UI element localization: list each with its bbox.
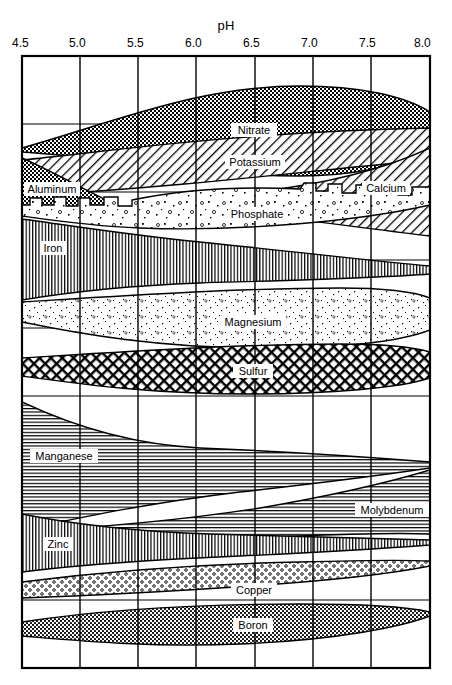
label-aluminum: Aluminum (24, 182, 80, 196)
label-copper-text: Copper (236, 584, 272, 596)
label-iron: Iron (40, 241, 66, 255)
label-zinc-text: Zinc (48, 538, 69, 550)
label-molybdenum: Molybdenum (355, 503, 429, 517)
label-manganese: Manganese (30, 449, 98, 463)
label-boron-text: Boron (238, 619, 267, 631)
label-aluminum-text: Aluminum (28, 183, 77, 195)
label-phosphate: Phosphate (228, 207, 286, 221)
label-magnesium: Magnesium (220, 315, 286, 329)
label-nitrate: Nitrate (231, 123, 277, 137)
label-sulfur-text: Sulfur (239, 365, 268, 377)
label-iron-text: Iron (44, 242, 63, 254)
nutrient-availability-chart: pH 4.5 5.0 5.5 6.0 6.5 7.0 7.5 8.0 (0, 0, 452, 685)
label-copper: Copper (231, 583, 277, 597)
chart-canvas: Nitrate Potassium Calcium Aluminum Phosp… (0, 0, 452, 685)
label-magnesium-text: Magnesium (225, 316, 282, 328)
label-sulfur: Sulfur (233, 364, 273, 378)
label-boron: Boron (233, 618, 273, 632)
label-nitrate-text: Nitrate (238, 124, 270, 136)
band-boron (22, 604, 430, 645)
label-molybdenum-text: Molybdenum (361, 504, 424, 516)
label-zinc: Zinc (43, 537, 73, 551)
label-potassium-text: Potassium (229, 156, 280, 168)
label-manganese-text: Manganese (35, 450, 93, 462)
band-iron (22, 219, 430, 300)
band-sulfur (22, 344, 430, 394)
label-potassium: Potassium (225, 155, 285, 169)
label-calcium: Calcium (362, 181, 410, 195)
label-phosphate-text: Phosphate (231, 208, 284, 220)
label-calcium-text: Calcium (366, 182, 406, 194)
